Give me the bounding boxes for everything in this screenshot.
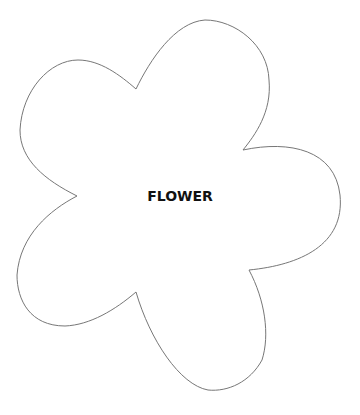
shape-label: FLOWER	[0, 188, 360, 204]
flower-outline	[17, 20, 340, 390]
flower-shape	[0, 0, 360, 415]
